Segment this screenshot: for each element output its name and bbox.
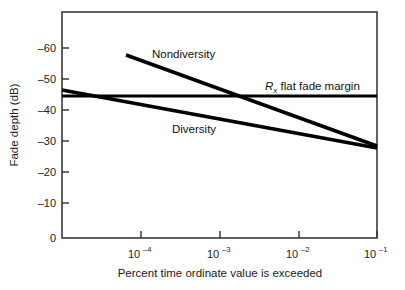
chart-canvas: –60 –50 –40 –30 –20 –10 0 10 –4 10 –3 10… — [0, 0, 405, 290]
x-tick-label-1e-1: 10 — [364, 248, 376, 260]
y-axis-title: Fade depth (dB) — [8, 83, 20, 166]
x-axis-title: Percent time ordinate value is exceeded — [118, 267, 323, 279]
y-tick-label-minus10: –10 — [38, 197, 56, 209]
fade-depth-chart-figure: –60 –50 –40 –30 –20 –10 0 10 –4 10 –3 10… — [0, 0, 405, 290]
rx-label-r: R — [265, 80, 273, 92]
x-tick-label-1e-3: 10 — [207, 248, 219, 260]
rx-label-rest: flat fade margin — [277, 80, 359, 92]
y-tick-label-minus30: –30 — [38, 135, 56, 147]
y-tick-label-minus50: –50 — [38, 73, 56, 85]
y-tick-label-zero: 0 — [50, 232, 56, 244]
chart-background — [0, 0, 405, 290]
x-tick-exponent-1e-4: –4 — [143, 245, 151, 254]
x-tick-exponent-1e-1: –1 — [379, 245, 387, 254]
series-label-diversity: Diversity — [172, 123, 216, 135]
y-tick-label-minus40: –40 — [38, 104, 56, 116]
x-tick-exponent-1e-3: –3 — [222, 245, 230, 254]
x-tick-exponent-1e-2: –2 — [301, 245, 309, 254]
y-tick-label-minus60: –60 — [38, 42, 56, 54]
y-tick-label-minus20: –20 — [38, 166, 56, 178]
x-tick-label-1e-2: 10 — [286, 248, 298, 260]
series-label-nondiversity: Nondiversity — [152, 48, 216, 60]
x-tick-label-1e-4: 10 — [128, 248, 140, 260]
